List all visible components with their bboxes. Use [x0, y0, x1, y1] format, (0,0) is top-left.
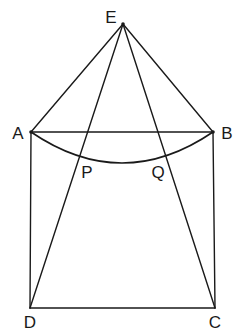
label-E: E: [105, 8, 116, 27]
segments-group: [30, 24, 215, 308]
segment-AD: [30, 132, 31, 308]
segment-EC: [123, 24, 215, 308]
segment-ED: [30, 24, 123, 308]
segment-EA: [31, 24, 123, 132]
labels-group: E A B P Q D C: [12, 8, 232, 331]
segment-BC: [213, 132, 215, 308]
label-B: B: [221, 124, 232, 143]
geometry-diagram: E A B P Q D C: [0, 0, 235, 331]
vertices-group: [29, 22, 215, 134]
label-P: P: [81, 163, 92, 182]
arc-AB: [31, 132, 213, 163]
vertex-E: [121, 22, 125, 26]
label-A: A: [12, 124, 24, 143]
label-Q: Q: [151, 163, 164, 182]
arcs-group: [31, 132, 213, 163]
segment-EB: [123, 24, 213, 132]
vertex-A: [29, 130, 33, 134]
label-C: C: [209, 313, 221, 331]
label-D: D: [24, 313, 36, 331]
vertex-B: [211, 130, 215, 134]
